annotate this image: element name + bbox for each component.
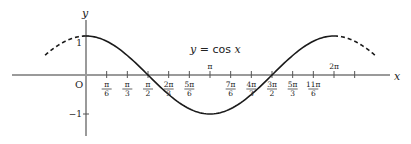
x-tick-label-den-8: 2 xyxy=(270,89,275,98)
cosine-curve-dashed-segment-1 xyxy=(334,36,375,55)
chart-title: y = cos x xyxy=(189,43,241,56)
title-eq: = xyxy=(196,43,212,56)
x-tick-label-num-8: 3π xyxy=(267,80,277,89)
y-tick-label-1: −1 xyxy=(69,109,82,119)
title-fn: cos xyxy=(212,43,234,56)
x-tick-label-num-3: 2π xyxy=(164,80,174,89)
x-tick-label-den-6: 6 xyxy=(228,89,233,98)
x-tick-label-5: π xyxy=(208,62,213,71)
x-tick-label-den-10: 6 xyxy=(311,89,316,98)
x-axis-label: x xyxy=(394,70,401,83)
x-tick-label-11: 2π xyxy=(329,62,339,71)
x-tick-label-num-2: π xyxy=(146,80,151,89)
x-tick-label-num-9: 5π xyxy=(288,80,298,89)
x-tick-label-den-4: 6 xyxy=(187,89,192,98)
x-tick-label-num-0: π xyxy=(104,80,109,89)
cosine-chart: x y O 1−1 π6π3π22π35π6π7π64π33π25π311π62… xyxy=(0,0,411,144)
title-var: x xyxy=(234,43,241,56)
x-tick-label-den-0: 6 xyxy=(104,89,109,98)
x-tick-label-num-10: 11π xyxy=(306,80,321,89)
y-tick-label-0: 1 xyxy=(76,38,82,48)
x-tick-label-num-1: π xyxy=(125,80,130,89)
y-axis-label: y xyxy=(81,7,89,20)
origin-label: O xyxy=(75,79,83,90)
x-tick-label-num-4: 5π xyxy=(184,80,194,89)
x-tick-label-den-2: 2 xyxy=(146,89,151,98)
x-tick-label-num-6: 7π xyxy=(226,80,236,89)
x-tick-label-den-9: 3 xyxy=(290,89,295,98)
x-tick-label-num-7: 4π xyxy=(246,80,256,89)
x-tick-label-den-1: 3 xyxy=(125,89,130,98)
